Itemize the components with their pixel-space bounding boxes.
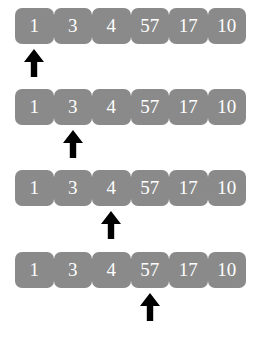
array-step-row: 1 3 4 57 17 10	[0, 89, 261, 167]
up-arrow-icon	[99, 210, 123, 240]
array-track: 1 3 4 57 17 10	[15, 89, 246, 125]
array-step-row: 1 3 4 57 17 10	[0, 8, 261, 86]
array-cell[interactable]: 1	[15, 8, 54, 44]
array-cell[interactable]: 17	[169, 8, 208, 44]
array-traversal-figure: 1 3 4 57 17 10 1 3 4 57 17 10	[0, 0, 261, 342]
array-cell[interactable]: 3	[54, 8, 93, 44]
array-cell[interactable]: 57	[131, 252, 170, 288]
up-arrow-icon	[61, 129, 85, 159]
array-track: 1 3 4 57 17 10	[15, 252, 246, 288]
array-cell[interactable]: 10	[208, 252, 247, 288]
array-cell[interactable]: 10	[208, 89, 247, 125]
array-cell[interactable]: 1	[15, 89, 54, 125]
array-cell[interactable]: 4	[92, 8, 131, 44]
array-step-row: 1 3 4 57 17 10	[0, 170, 261, 248]
array-cell[interactable]: 17	[169, 170, 208, 206]
array-cell[interactable]: 57	[131, 170, 170, 206]
array-cell[interactable]: 10	[208, 8, 247, 44]
array-cell[interactable]: 3	[54, 252, 93, 288]
up-arrow-icon	[138, 292, 162, 322]
array-cell[interactable]: 3	[54, 89, 93, 125]
array-cell[interactable]: 4	[92, 252, 131, 288]
array-cell[interactable]: 57	[131, 89, 170, 125]
array-cell[interactable]: 57	[131, 8, 170, 44]
array-cell[interactable]: 17	[169, 252, 208, 288]
array-cell[interactable]: 1	[15, 252, 54, 288]
array-step-row: 1 3 4 57 17 10	[0, 252, 261, 330]
array-track: 1 3 4 57 17 10	[15, 170, 246, 206]
array-cell[interactable]: 4	[92, 89, 131, 125]
array-track: 1 3 4 57 17 10	[15, 8, 246, 44]
array-cell[interactable]: 3	[54, 170, 93, 206]
array-cell[interactable]: 1	[15, 170, 54, 206]
array-cell[interactable]: 4	[92, 170, 131, 206]
up-arrow-icon	[22, 48, 46, 78]
array-cell[interactable]: 17	[169, 89, 208, 125]
array-cell[interactable]: 10	[208, 170, 247, 206]
